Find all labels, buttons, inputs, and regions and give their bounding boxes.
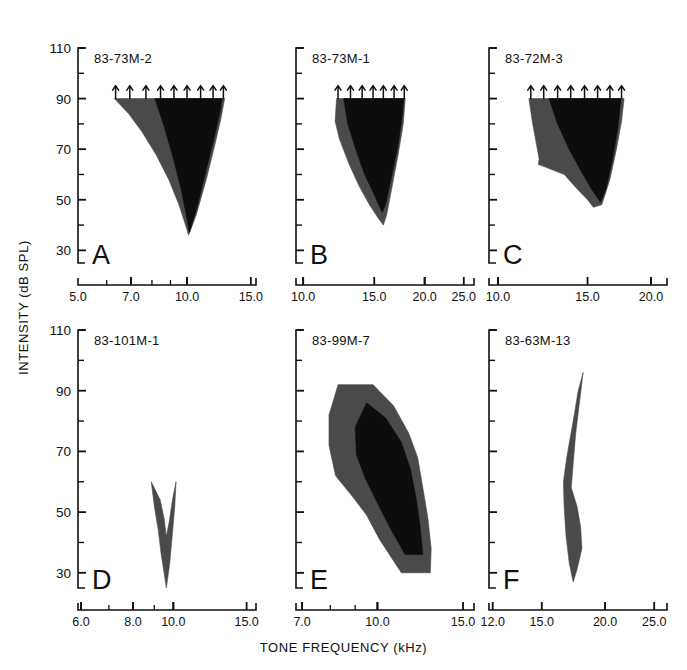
x-tick-label: 7.0 (293, 615, 310, 629)
panel-unit-id: 83-63M-13 (505, 333, 571, 348)
up-arrow-icon (113, 86, 119, 99)
x-tick-label: 10.0 (486, 290, 510, 304)
panel-letter: A (92, 240, 110, 270)
x-tick-label: 15.0 (362, 290, 386, 304)
panel-e: 7.010.015.083-99M-7E (293, 330, 475, 629)
y-axis-line (78, 330, 85, 588)
y-tick-label: 30 (56, 566, 71, 581)
panel-letter: C (503, 240, 523, 270)
y-tick-label: 70 (56, 444, 71, 459)
y-tick-label: 70 (56, 142, 71, 157)
y-axis-line (489, 330, 496, 588)
x-axis: 7.010.015.0 (293, 602, 475, 629)
tuning-curve-figure: 110907050305.07.010.015.083-73M-2A10.015… (0, 0, 687, 670)
panel-letter: B (310, 240, 328, 270)
y-axis-line (489, 48, 496, 263)
x-axis: 12.015.020.025.0 (481, 602, 667, 629)
up-arrow-icon (595, 86, 601, 99)
panel-unit-id: 83-101M-1 (94, 333, 160, 348)
up-arrow-icon (210, 86, 216, 99)
up-arrow-icon (359, 86, 365, 99)
x-tick-label: 8.0 (124, 615, 141, 629)
up-arrow-icon (582, 86, 588, 99)
tuning-curve-plot: 110907050305.07.010.015.083-73M-2A10.015… (0, 0, 687, 670)
x-tick-label: 10.0 (175, 290, 199, 304)
up-arrow-icon (127, 86, 133, 99)
y-tick-label: 110 (49, 41, 71, 56)
x-tick-label: 20.0 (412, 290, 436, 304)
y-axis-line (296, 48, 303, 263)
y-tick-label: 30 (56, 243, 71, 258)
up-arrow-icon (555, 86, 561, 99)
panel-b: 10.015.020.025.083-73M-1B (291, 48, 476, 304)
panel-a: 110907050305.07.010.015.083-73M-2A (49, 41, 263, 304)
up-arrow-icon (541, 86, 547, 99)
panel-unit-id: 83-99M-7 (312, 333, 370, 348)
y-axis (296, 48, 304, 263)
panel-letter: D (92, 565, 112, 595)
x-tick-label: 15.0 (575, 290, 599, 304)
y-tick-label: 50 (56, 193, 71, 208)
panel-unit-id: 83-73M-1 (312, 51, 370, 66)
x-axis: 10.015.020.0 (486, 277, 667, 304)
x-axis-line (489, 603, 667, 610)
ceiling-arrows (113, 86, 227, 99)
y-axis: 11090705030 (49, 323, 86, 588)
x-tick-label: 10.0 (161, 615, 185, 629)
y-axis-title: INTENSITY (dB SPL) (16, 203, 31, 413)
x-tick-label: 6.0 (72, 615, 89, 629)
x-tick-label: 15.0 (234, 615, 258, 629)
x-axis: 6.08.010.015.0 (72, 602, 258, 629)
x-axis-line (489, 278, 667, 285)
up-arrow-icon (335, 86, 341, 99)
up-arrow-icon (370, 86, 376, 99)
x-tick-label: 25.0 (452, 290, 476, 304)
up-arrow-icon (607, 86, 613, 99)
x-axis-line (296, 603, 474, 610)
panel-letter: F (503, 565, 520, 595)
y-tick-label: 90 (56, 92, 71, 107)
x-axis-line (78, 603, 256, 610)
up-arrow-icon (198, 86, 204, 99)
x-axis-line (296, 278, 474, 285)
panel-unit-id: 83-73M-2 (94, 51, 152, 66)
up-arrow-icon (380, 86, 386, 99)
x-tick-label: 20.0 (639, 290, 663, 304)
y-tick-label: 110 (49, 323, 71, 338)
y-axis: 11090705030 (49, 41, 86, 263)
x-tick-label: 7.0 (122, 290, 139, 304)
response-area-outer (151, 482, 176, 588)
x-tick-label: 25.0 (642, 615, 666, 629)
x-tick-label: 5.0 (69, 290, 86, 304)
up-arrow-icon (184, 86, 190, 99)
panel-unit-id: 83-72M-3 (505, 51, 563, 66)
y-axis-line (78, 48, 85, 263)
y-axis (489, 48, 497, 263)
panel-letter: E (310, 565, 328, 595)
x-tick-label: 10.0 (365, 615, 389, 629)
up-arrow-icon (391, 86, 397, 99)
up-arrow-icon (143, 86, 149, 99)
x-tick-label: 10.0 (291, 290, 315, 304)
up-arrow-icon (158, 86, 164, 99)
y-axis (489, 330, 497, 588)
x-axis-line (78, 278, 256, 285)
x-tick-label: 15.0 (239, 290, 263, 304)
y-axis-line (296, 330, 303, 588)
up-arrow-icon (347, 86, 353, 99)
x-tick-label: 15.0 (530, 615, 554, 629)
y-tick-label: 90 (56, 384, 71, 399)
panel-c: 10.015.020.083-72M-3C (486, 48, 667, 304)
x-axis: 5.07.010.015.0 (69, 277, 263, 304)
x-tick-label: 15.0 (451, 615, 475, 629)
up-arrow-icon (171, 86, 177, 99)
response-area-outer (563, 372, 583, 581)
x-tick-label: 12.0 (481, 615, 505, 629)
up-arrow-icon (568, 86, 574, 99)
y-axis (296, 330, 304, 588)
up-arrow-icon (401, 86, 407, 99)
up-arrow-icon (619, 86, 625, 99)
x-tick-label: 20.0 (593, 615, 617, 629)
panel-d: 110907050306.08.010.015.083-101M-1D (49, 323, 258, 629)
up-arrow-icon (528, 86, 534, 99)
